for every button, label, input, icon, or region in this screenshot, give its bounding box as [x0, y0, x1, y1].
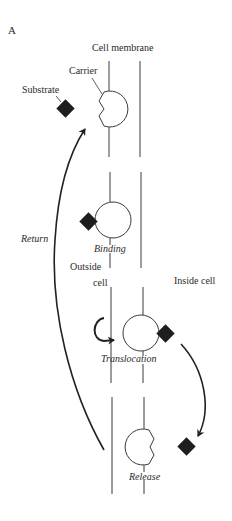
substrate-bound-translocation: [156, 324, 174, 342]
panel-label: A: [8, 25, 16, 36]
carrier-pointer: [92, 78, 102, 94]
inside-cell-label: Inside cell: [174, 276, 215, 286]
cell-membrane-label: Cell membrane: [92, 43, 153, 53]
carrier-stage-binding: [95, 202, 131, 238]
carrier-stage-release: [125, 429, 154, 465]
carrier-stage-translocation: [123, 315, 159, 351]
substrate-pointer: [56, 96, 61, 102]
diagram-graphics: [0, 0, 232, 521]
translocation-label: Translocation: [101, 354, 157, 364]
return-label: Return: [21, 234, 48, 244]
return-arrow-icon: [54, 129, 104, 450]
release-label: Release: [129, 472, 160, 482]
carrier-transport-diagram: A Cell membrane Carrier Substrate Return…: [0, 0, 232, 521]
substrate-released: [177, 437, 195, 455]
outside-cell-label-line1: Outside: [70, 262, 101, 272]
outside-cell-label-line2: cell: [93, 278, 107, 288]
carrier-stage-initial: [99, 91, 128, 127]
binding-label: Binding: [94, 244, 126, 254]
substrate-label: Substrate: [22, 85, 59, 95]
release-arrow-icon: [181, 344, 205, 436]
substrate-free: [56, 99, 74, 117]
substrate-bound-binding: [79, 212, 97, 230]
carrier-label: Carrier: [69, 66, 97, 76]
